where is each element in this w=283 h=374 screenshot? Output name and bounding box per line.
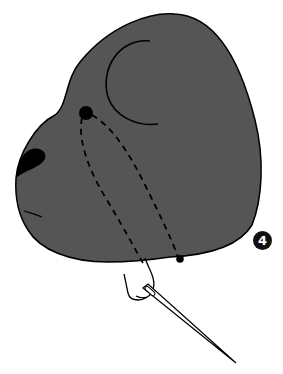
step-number-badge: 4: [253, 231, 272, 250]
bear-head-diagram: [0, 0, 283, 374]
exit-dot: [176, 255, 184, 263]
needle: [143, 284, 236, 363]
eye-dot: [79, 106, 93, 120]
head-shape: [16, 14, 261, 262]
